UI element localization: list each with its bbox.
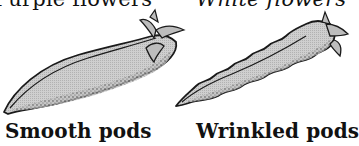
- smooth-pods-label: Smooth pods: [5, 119, 152, 143]
- wrinkled-pod-icon: [176, 12, 348, 106]
- smooth-pod-icon: [4, 10, 184, 114]
- wrinkled-pods-label: Wrinkled pods: [196, 119, 359, 143]
